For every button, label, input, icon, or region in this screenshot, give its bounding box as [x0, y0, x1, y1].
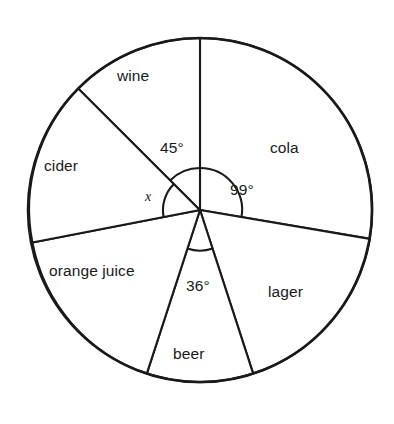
angle-label-99: 99°	[230, 182, 254, 198]
pie-chart-figure: wine cider orange juice beer lager cola …	[0, 0, 394, 424]
angle-label-45: 45°	[160, 140, 184, 156]
sector-label-lager: lager	[268, 284, 303, 300]
sector-label-wine: wine	[117, 68, 149, 84]
angle-label-36: 36°	[186, 278, 210, 294]
sector-label-cola: cola	[270, 140, 299, 156]
angle-label-unknown-x: x	[145, 190, 151, 204]
sector-label-beer: beer	[173, 346, 204, 362]
pie-sectors	[29, 38, 372, 382]
sector-label-orange-juice: orange juice	[49, 263, 135, 279]
sector-label-cider: cider	[44, 158, 78, 174]
